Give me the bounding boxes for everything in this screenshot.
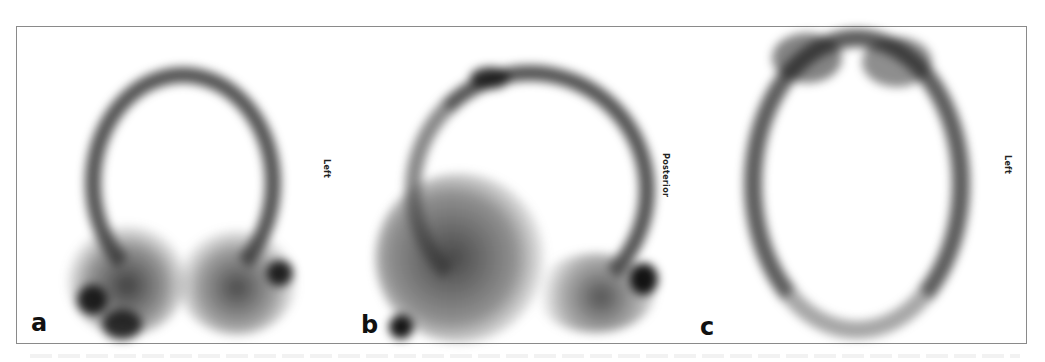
- sagittal-scan-image: [375, 63, 665, 345]
- panel-label-c: c: [700, 315, 714, 339]
- orientation-label-posterior: Posterior: [661, 153, 670, 197]
- panel-c: c Left: [692, 27, 1028, 343]
- panel-b: b Posterior: [347, 27, 692, 343]
- orientation-label-left-a: Left: [322, 159, 331, 178]
- orientation-label-left-c: Left: [1003, 155, 1012, 174]
- panel-a: a Left: [17, 27, 347, 343]
- figure-frame: a Left b Posterior c Left: [16, 26, 1027, 344]
- transaxial-scan-image: [732, 25, 982, 347]
- panel-label-a: a: [31, 311, 47, 335]
- show-through-text-line: [30, 354, 1020, 358]
- coronal-scan-image: [67, 65, 307, 345]
- panel-label-b: b: [361, 313, 378, 337]
